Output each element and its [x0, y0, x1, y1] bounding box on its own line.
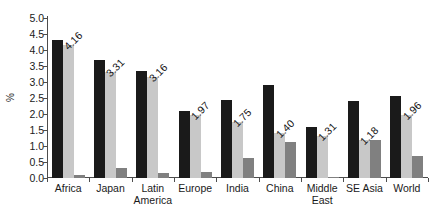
category-label-line1: World	[393, 182, 420, 194]
y-axis-tickmark	[43, 82, 47, 83]
y-axis-tick-label: 1.0	[18, 141, 44, 152]
x-axis-category-label: SE Asia	[343, 182, 385, 216]
bar-group: 4.16	[47, 18, 89, 178]
bar-series-2[interactable]	[232, 122, 243, 178]
grouped-bar-chart: % 5.04.54.03.53.02.52.01.51.00.50.0 4.16…	[0, 0, 434, 224]
y-axis-tick-label: 0.5	[18, 157, 44, 168]
x-axis-category-label: Africa	[47, 182, 89, 216]
y-axis-tick-label: 1.5	[18, 125, 44, 136]
y-axis-tick-label: 3.0	[18, 77, 44, 88]
category-label-line1: Europe	[178, 182, 212, 194]
bar-series-3[interactable]	[158, 173, 169, 178]
bar-group: 3.16	[132, 18, 174, 178]
bar-series-3[interactable]	[243, 158, 254, 178]
y-axis-tick-label: 4.5	[18, 29, 44, 40]
y-axis-tickmark	[43, 98, 47, 99]
y-axis-tickmark	[43, 130, 47, 131]
bar-groups: 4.163.313.161.971.751.401.311.181.96	[47, 18, 428, 178]
bar-series-2[interactable]	[63, 45, 74, 178]
bar-group: 1.31	[301, 18, 343, 178]
plot-area: 4.163.313.161.971.751.401.311.181.96	[47, 18, 428, 178]
y-axis-tickmark	[43, 162, 47, 163]
category-label-line1: Middle	[307, 182, 338, 194]
bar-group: 1.97	[174, 18, 216, 178]
bar-series-3[interactable]	[201, 172, 212, 178]
x-axis-tickmark	[428, 178, 429, 182]
y-axis-tick-labels: 5.04.54.03.53.02.52.01.51.00.50.0	[18, 12, 44, 184]
bar-series-1[interactable]	[221, 100, 232, 178]
y-axis-tick-label: 0.0	[18, 173, 44, 184]
x-axis-category-label: Japan	[89, 182, 131, 216]
x-axis-category-label: MiddleEast	[301, 182, 343, 216]
bar-series-1[interactable]	[179, 111, 190, 178]
y-axis-tickmark	[43, 114, 47, 115]
y-axis-tickmark	[43, 146, 47, 147]
bar-series-3[interactable]	[328, 177, 339, 178]
bar-series-3[interactable]	[370, 140, 381, 178]
bar-series-2[interactable]	[317, 136, 328, 178]
x-axis-category-label: World	[386, 182, 428, 216]
bar-series-1[interactable]	[52, 40, 63, 178]
y-axis-title: %	[5, 90, 16, 106]
category-label-line2: America	[132, 194, 174, 206]
y-axis-tick-label: 4.0	[18, 45, 44, 56]
y-axis-tick-label: 2.5	[18, 93, 44, 104]
x-axis-category-label: China	[259, 182, 301, 216]
category-label-line1: India	[226, 182, 249, 194]
bar-series-2[interactable]	[274, 133, 285, 178]
y-axis-tick-label: 5.0	[18, 13, 44, 24]
bar-series-1[interactable]	[390, 96, 401, 178]
bar-group: 1.75	[216, 18, 258, 178]
category-label-line1: Latin	[141, 182, 164, 194]
bar-series-2[interactable]	[401, 115, 412, 178]
bar-series-3[interactable]	[116, 168, 127, 178]
bar-series-3[interactable]	[285, 142, 296, 178]
bar-series-2[interactable]	[147, 77, 158, 178]
bar-series-2[interactable]	[190, 115, 201, 178]
bar-series-2[interactable]	[105, 72, 116, 178]
bar-series-3[interactable]	[412, 156, 423, 178]
x-axis-category-label: India	[216, 182, 258, 216]
bar-series-1[interactable]	[94, 60, 105, 178]
category-label-line2: East	[301, 194, 343, 206]
x-axis-category-label: Europe	[174, 182, 216, 216]
bar-series-3[interactable]	[74, 175, 85, 178]
bar-series-1[interactable]	[306, 127, 317, 178]
y-axis-tick-label: 2.0	[18, 109, 44, 120]
category-label-line1: SE Asia	[346, 182, 383, 194]
bar-group: 3.31	[89, 18, 131, 178]
category-label-line1: Japan	[96, 182, 125, 194]
bar-series-1[interactable]	[136, 71, 147, 178]
y-axis-tickmark	[43, 50, 47, 51]
x-axis-category-labels: AfricaJapanLatinAmericaEuropeIndiaChinaM…	[47, 182, 428, 216]
category-label-line1: Africa	[55, 182, 82, 194]
y-axis-tick-label: 3.5	[18, 61, 44, 72]
y-axis-tickmark	[43, 34, 47, 35]
y-axis-tickmark	[43, 18, 47, 19]
bar-value-label: 4.16	[62, 30, 84, 52]
bar-group: 1.40	[259, 18, 301, 178]
y-axis-tickmark	[43, 66, 47, 67]
bar-group: 1.96	[386, 18, 428, 178]
x-axis-category-label: LatinAmerica	[132, 182, 174, 216]
category-label-line1: China	[266, 182, 293, 194]
bar-group: 1.18	[343, 18, 385, 178]
